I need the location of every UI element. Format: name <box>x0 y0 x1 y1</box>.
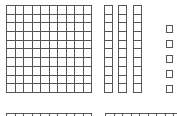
block-cell <box>7 84 15 92</box>
block-cell <box>67 6 75 14</box>
block-cell <box>24 15 32 23</box>
block-cell <box>105 15 112 23</box>
block-cell <box>58 58 66 66</box>
block-cell <box>7 6 15 14</box>
block-cell <box>58 67 66 75</box>
block-cell <box>50 84 58 92</box>
block-cell <box>84 67 92 75</box>
block-cell <box>134 32 141 40</box>
block-cell <box>119 58 126 66</box>
block-cell <box>105 23 112 31</box>
block-cell <box>16 32 24 40</box>
block-cell <box>41 6 49 14</box>
block-cell <box>7 49 15 57</box>
hundred-flat-partial-2 <box>105 113 177 116</box>
block-cell <box>58 76 66 84</box>
unit-cube-3 <box>166 55 173 63</box>
block-cell <box>58 15 66 23</box>
block-cell <box>119 84 126 92</box>
block-cell <box>119 41 126 49</box>
block-cell <box>166 114 174 116</box>
block-cell <box>67 84 75 92</box>
block-cell <box>132 114 140 116</box>
block-cell <box>7 67 15 75</box>
block-cell <box>149 114 157 116</box>
block-cell <box>75 32 83 40</box>
block-cell <box>119 76 126 84</box>
block-cell <box>84 49 92 57</box>
block-cell <box>134 76 141 84</box>
block-cell <box>75 84 83 92</box>
block-cell <box>84 58 92 66</box>
block-cell <box>75 114 83 116</box>
block-cell <box>33 58 41 66</box>
block-cell <box>16 15 24 23</box>
block-cell <box>50 67 58 75</box>
block-cell <box>84 15 92 23</box>
block-cell <box>41 58 49 66</box>
block-cell <box>58 114 66 116</box>
block-cell <box>134 23 141 31</box>
block-cell <box>58 6 66 14</box>
block-cell <box>50 32 58 40</box>
block-cell <box>41 76 49 84</box>
block-cell <box>75 41 83 49</box>
block-cell <box>24 41 32 49</box>
block-cell <box>157 114 165 116</box>
block-cell <box>67 32 75 40</box>
block-cell <box>75 15 83 23</box>
block-cell <box>58 32 66 40</box>
block-cell <box>84 41 92 49</box>
block-cell <box>75 58 83 66</box>
block-cell <box>58 84 66 92</box>
block-cell <box>134 6 141 14</box>
block-cell <box>84 32 92 40</box>
block-cell <box>7 58 15 66</box>
block-cell <box>16 23 24 31</box>
ten-rod-1 <box>104 5 113 93</box>
block-cell <box>75 49 83 57</box>
block-cell <box>75 76 83 84</box>
block-cell <box>7 23 15 31</box>
block-cell <box>24 23 32 31</box>
unit-cube-4 <box>166 70 173 78</box>
block-cell <box>75 67 83 75</box>
block-cell <box>67 58 75 66</box>
block-cell <box>50 114 58 116</box>
block-cell <box>16 114 24 116</box>
block-cell <box>105 6 112 14</box>
block-cell <box>67 15 75 23</box>
block-cell <box>105 67 112 75</box>
unit-cube-5 <box>166 85 173 93</box>
block-cell <box>33 15 41 23</box>
block-cell <box>7 114 15 116</box>
block-cell <box>58 41 66 49</box>
block-cell <box>50 58 58 66</box>
block-cell <box>105 49 112 57</box>
block-cell <box>24 32 32 40</box>
block-cell <box>16 84 24 92</box>
block-cell <box>33 23 41 31</box>
block-cell <box>24 76 32 84</box>
block-cell <box>16 76 24 84</box>
block-cell <box>24 49 32 57</box>
block-cell <box>140 114 148 116</box>
block-cell <box>16 49 24 57</box>
block-cell <box>67 114 75 116</box>
block-cell <box>134 49 141 57</box>
unit-cube-1 <box>166 25 173 33</box>
block-cell <box>134 84 141 92</box>
block-cell <box>50 41 58 49</box>
block-cell <box>7 15 15 23</box>
block-cell <box>115 114 123 116</box>
block-cell <box>16 58 24 66</box>
block-cell <box>84 6 92 14</box>
block-cell <box>33 6 41 14</box>
block-cell <box>134 15 141 23</box>
block-cell <box>105 41 112 49</box>
block-cell <box>16 6 24 14</box>
block-cell <box>75 23 83 31</box>
block-cell <box>16 41 24 49</box>
block-cell <box>41 84 49 92</box>
unit-cube-2 <box>166 40 173 48</box>
